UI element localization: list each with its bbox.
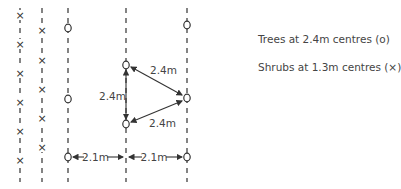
svg-text:×: × xyxy=(37,112,46,125)
tree-marker xyxy=(65,95,71,103)
row-spacing-label-right: 2.1m xyxy=(141,151,168,163)
svg-text:×: × xyxy=(15,9,24,22)
dimension-label-left: 2.4m xyxy=(99,90,126,102)
dimension-label-bottom: 2.4m xyxy=(149,117,176,129)
tree-marker xyxy=(184,153,190,161)
shrub-marker: × xyxy=(37,112,47,125)
tree-marker xyxy=(123,120,129,128)
tree-marker xyxy=(123,61,129,69)
dimension-label-top: 2.4m xyxy=(150,64,177,76)
shrub-marker: × xyxy=(15,154,25,167)
legend-shrubs: Shrubs at 1.3m centres (×) xyxy=(258,61,401,73)
row-spacing-label-left: 2.1m xyxy=(82,151,109,163)
svg-text:×: × xyxy=(15,154,24,167)
shrub-marker: × xyxy=(37,24,47,37)
svg-text:×: × xyxy=(15,96,24,109)
shrub-marker: × xyxy=(15,96,25,109)
tree-marker xyxy=(184,21,190,29)
shrub-marker: × xyxy=(15,9,25,22)
tree-marker xyxy=(65,24,71,32)
shrub-marker: × xyxy=(37,141,47,154)
tree-markers xyxy=(65,21,190,161)
shrub-marker: × xyxy=(15,67,25,80)
svg-text:×: × xyxy=(15,67,24,80)
tree-marker xyxy=(184,94,190,102)
shrub-marker: × xyxy=(37,54,47,67)
shrub-marker: × xyxy=(15,125,25,138)
legend-trees: Trees at 2.4m centres (o) xyxy=(258,33,390,45)
svg-text:×: × xyxy=(15,125,24,138)
svg-text:×: × xyxy=(37,24,46,37)
svg-text:×: × xyxy=(37,141,46,154)
svg-text:×: × xyxy=(37,54,46,67)
shrub-marker: × xyxy=(37,83,47,96)
svg-text:×: × xyxy=(15,38,24,51)
tree-marker xyxy=(65,153,71,161)
shrub-marker: × xyxy=(15,38,25,51)
svg-text:×: × xyxy=(37,83,46,96)
